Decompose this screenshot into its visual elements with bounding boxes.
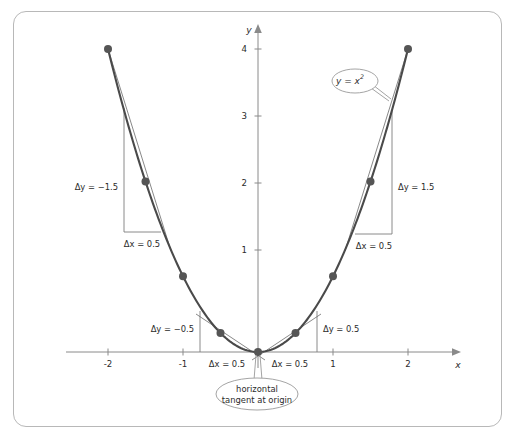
y-tick-label-3: 3: [242, 111, 247, 121]
equation-callout-text: y = x: [335, 76, 361, 86]
label-dx-right-outer: Δx = 0.5: [356, 241, 392, 251]
right-inner-secant: [252, 314, 321, 360]
parabola-plot: -2 -1 1 2 1 2 3 4 x y Δy = −1.5 Δx = 0.5…: [0, 0, 517, 442]
data-point: [254, 348, 262, 356]
x-axis-label: x: [454, 359, 461, 370]
x-tick-label-1: 1: [330, 359, 335, 369]
difference-triangle-left-outer: [108, 49, 171, 251]
x-tick-label-2: 2: [405, 359, 410, 369]
data-point: [367, 178, 375, 186]
figure-root: -2 -1 1 2 1 2 3 4 x y Δy = −1.5 Δx = 0.5…: [0, 0, 517, 442]
data-point: [404, 45, 412, 53]
origin-callout-line1: horizontal: [236, 384, 278, 394]
data-point: [142, 178, 150, 186]
y-tick-label-1: 1: [242, 245, 247, 255]
equation-callout: y = x 2: [332, 69, 391, 101]
x-tick-label--2: -2: [104, 359, 113, 369]
origin-callout-leader-b: [260, 355, 262, 380]
label-dx-left-outer: Δx = 0.5: [124, 239, 160, 249]
y-axis-label: y: [245, 24, 252, 35]
y-tick-label-2: 2: [242, 178, 247, 188]
data-point: [292, 329, 300, 337]
equation-callout-leader-b: [373, 85, 391, 99]
y-tick-label-4: 4: [242, 44, 247, 54]
label-dx-left-inner: Δx = 0.5: [209, 359, 245, 369]
label-dx-right-inner: Δx = 0.5: [272, 359, 308, 369]
left-outer-secant: [108, 49, 171, 251]
data-point: [179, 272, 187, 280]
label-dy-left-inner: Δy = −0.5: [151, 324, 194, 334]
equation-callout-exponent: 2: [360, 73, 364, 80]
label-dy-right-inner: Δy = 0.5: [323, 324, 359, 334]
origin-callout-bubble: [216, 378, 298, 410]
label-dy-left-outer: Δy = −1.5: [75, 182, 118, 192]
data-point: [329, 272, 337, 280]
data-point: [104, 45, 112, 53]
origin-callout-line2: tangent at origin: [222, 395, 292, 405]
y-axis-arrowhead: [254, 24, 262, 33]
data-point: [217, 329, 225, 337]
x-axis-arrowhead: [452, 348, 461, 356]
label-dy-right-outer: Δy = 1.5: [398, 182, 434, 192]
x-tick-label--1: -1: [179, 359, 188, 369]
